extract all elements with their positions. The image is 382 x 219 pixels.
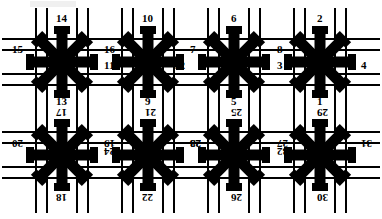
marker-label-7: 7 <box>190 44 196 55</box>
marker-label-15: 15 <box>12 44 23 55</box>
marker-label-9: 9 <box>145 96 151 107</box>
marker-label-17: 17 <box>56 107 67 118</box>
marker-label-11: 11 <box>104 60 114 71</box>
marker-label-32: 32 <box>277 146 288 157</box>
fiducial-marker-board: 14 15 16 13 10 11 12 9 6 7 8 5 2 3 4 1 1… <box>0 0 382 219</box>
marker-label-5: 5 <box>231 96 237 107</box>
marker-label-18: 18 <box>56 192 67 203</box>
marker-label-28: 28 <box>190 138 201 149</box>
marker-label-10: 10 <box>142 13 153 24</box>
marker-label-6: 6 <box>231 13 237 24</box>
marker-label-8: 8 <box>277 44 283 55</box>
marker-label-2: 2 <box>317 13 323 24</box>
marker-label-26: 26 <box>231 192 242 203</box>
marker-label-4: 4 <box>361 60 367 71</box>
marker-label-12: 12 <box>174 60 185 71</box>
marker-label-20: 20 <box>12 138 23 149</box>
marker-label-21: 21 <box>145 107 156 118</box>
marker-label-layer: 14 15 16 13 10 11 12 9 6 7 8 5 2 3 4 1 1… <box>0 0 382 219</box>
marker-label-25: 25 <box>231 107 242 118</box>
marker-label-24: 24 <box>104 146 115 157</box>
marker-label-31: 31 <box>361 138 372 149</box>
marker-label-29: 29 <box>317 107 328 118</box>
marker-label-16: 16 <box>104 44 115 55</box>
marker-label-14: 14 <box>56 13 67 24</box>
marker-label-22: 22 <box>142 192 153 203</box>
marker-label-3: 3 <box>277 60 283 71</box>
marker-label-30: 30 <box>317 192 328 203</box>
marker-label-1: 1 <box>317 96 323 107</box>
marker-label-13: 13 <box>56 96 67 107</box>
